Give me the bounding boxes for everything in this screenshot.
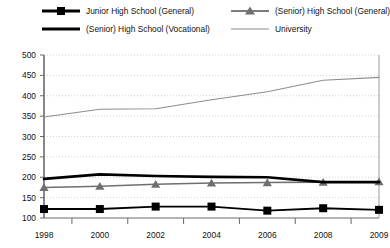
y-axis-tick-label: 400 <box>22 91 36 101</box>
data-point-square-marker <box>40 205 48 213</box>
chart-legend: Junior High School (General) (Senior) Hi… <box>42 4 386 42</box>
series-junior-high-school-general <box>40 203 383 215</box>
data-point-square-marker <box>208 203 216 211</box>
y-axis-tick-label: 500 <box>22 50 36 60</box>
x-axis-tick-label: 2009 <box>370 230 389 240</box>
y-axis-tick-label: 200 <box>22 172 36 182</box>
line-chart-svg: 1001502002503003504004505001998200020022… <box>0 44 390 248</box>
legend-key-square-marker-line <box>42 5 80 17</box>
x-axis-tick-label: 2006 <box>258 230 277 240</box>
data-point-square-marker <box>152 203 160 211</box>
legend-line-segment-icon <box>231 29 269 30</box>
legend-label-senior-high-general: (Senior) High School (General) <box>275 6 390 16</box>
data-point-square-marker <box>96 205 104 213</box>
x-axis-tick-label: 1998 <box>35 230 54 240</box>
legend-item-senior-high-vocational: (Senior) High School (Vocational) <box>42 23 210 35</box>
y-axis-tick-label: 300 <box>22 132 36 142</box>
square-marker-icon <box>57 7 65 15</box>
data-point-square-marker <box>319 204 327 212</box>
y-gridlines: 100150200250300350400450500 <box>22 50 379 223</box>
legend-label-university: University <box>275 24 312 34</box>
series-line <box>44 77 379 117</box>
y-axis-tick-label: 150 <box>22 193 36 203</box>
x-axis-ticks: 1998200020022004200620082009 <box>35 218 389 240</box>
legend-item-university: University <box>231 23 312 35</box>
y-axis-tick-label: 350 <box>22 111 36 121</box>
legend-label-senior-high-vocational: (Senior) High School (Vocational) <box>86 24 210 34</box>
legend-item-junior-high-general: Junior High School (General) <box>42 5 194 17</box>
legend-key-triangle-marker-line <box>231 5 269 17</box>
series-university <box>44 77 379 117</box>
legend-item-senior-high-general: (Senior) High School (General) <box>231 5 390 17</box>
y-axis-tick-label: 450 <box>22 70 36 80</box>
x-axis-tick-label: 2002 <box>146 230 165 240</box>
series-senior-high-school-general <box>39 178 383 192</box>
x-axis-tick-label: 2008 <box>314 230 333 240</box>
legend-label-junior-high-general: Junior High School (General) <box>86 6 194 16</box>
y-axis-tick-label: 250 <box>22 152 36 162</box>
triangle-marker-icon <box>245 7 255 15</box>
plot-area-wrapper: 1001502002503003504004505001998200020022… <box>0 44 390 248</box>
data-point-square-marker <box>375 206 383 214</box>
x-axis-tick-label: 2000 <box>91 230 110 240</box>
data-point-square-marker <box>263 207 271 215</box>
x-axis-tick-label: 2004 <box>202 230 221 240</box>
y-axis-tick-label: 100 <box>22 213 36 223</box>
legend-key-thick-line <box>42 23 80 35</box>
legend-key-thin-gray-line <box>231 23 269 35</box>
legend-line-segment-icon <box>42 28 80 31</box>
chart-container: Junior High School (General) (Senior) Hi… <box>0 0 390 248</box>
